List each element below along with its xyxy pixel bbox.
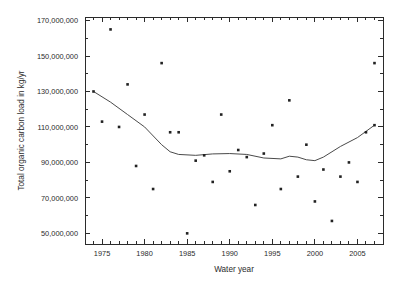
data-point	[237, 149, 240, 152]
x-axis-tick-labels: 1975198019851990199520002005	[94, 249, 366, 258]
x-tick-label: 2000	[307, 249, 323, 258]
data-point	[118, 126, 121, 129]
y-tick-label: 130,000,000	[37, 87, 78, 96]
x-tick-label: 1995	[264, 249, 280, 258]
data-point	[186, 232, 189, 235]
y-axis-tick-labels: 50,000,00070,000,00090,000,000110,000,00…	[37, 16, 78, 238]
data-point	[203, 154, 206, 157]
y-tick-label: 110,000,000	[37, 123, 78, 132]
toc-load-scatter-chart: 50,000,00070,000,00090,000,000110,000,00…	[0, 0, 403, 287]
y-axis-ticks	[85, 21, 383, 234]
data-point	[339, 175, 342, 178]
plot-frame	[85, 17, 383, 244]
data-point	[109, 28, 112, 31]
y-axis-title: Total organic carbon load in kg/yr	[17, 70, 26, 190]
data-point	[365, 131, 368, 134]
data-point	[254, 204, 257, 207]
data-point	[373, 124, 376, 127]
y-tick-label: 70,000,000	[41, 194, 78, 203]
data-point	[177, 131, 180, 134]
data-point	[194, 159, 197, 162]
data-point	[135, 165, 138, 168]
data-point	[228, 170, 231, 173]
x-tick-label: 1980	[136, 249, 152, 258]
data-point	[373, 62, 376, 65]
y-tick-label: 150,000,000	[37, 52, 78, 61]
data-point	[314, 200, 317, 203]
data-point	[271, 124, 274, 127]
x-tick-label: 2005	[349, 249, 365, 258]
data-point	[143, 113, 146, 116]
axis-frame	[85, 17, 383, 244]
y-tick-label: 170,000,000	[37, 16, 78, 25]
data-point	[220, 113, 223, 116]
x-axis-ticks	[85, 17, 383, 244]
data-point-series	[92, 28, 376, 235]
data-point	[331, 220, 334, 223]
x-axis-title: Water year	[214, 265, 254, 274]
data-point	[280, 188, 283, 191]
trend-line-series	[94, 91, 375, 160]
chart-container: 50,000,00070,000,00090,000,000110,000,00…	[0, 0, 403, 287]
data-point	[263, 152, 266, 155]
data-point	[169, 131, 172, 134]
x-tick-label: 1990	[222, 249, 238, 258]
data-point	[211, 181, 214, 184]
data-point	[152, 188, 155, 191]
y-tick-label: 90,000,000	[41, 158, 78, 167]
data-point	[305, 143, 308, 146]
y-tick-label: 50,000,000	[41, 229, 78, 238]
x-tick-label: 1975	[94, 249, 110, 258]
data-point	[297, 175, 300, 178]
data-point	[348, 161, 351, 164]
data-point	[356, 181, 359, 184]
data-point	[245, 156, 248, 159]
data-point	[126, 83, 129, 86]
smoothed-trend-line	[94, 91, 375, 160]
data-point	[288, 99, 291, 102]
data-point	[160, 62, 163, 65]
data-point	[92, 90, 95, 93]
data-point	[101, 120, 104, 123]
x-tick-label: 1985	[179, 249, 195, 258]
data-point	[322, 168, 325, 171]
